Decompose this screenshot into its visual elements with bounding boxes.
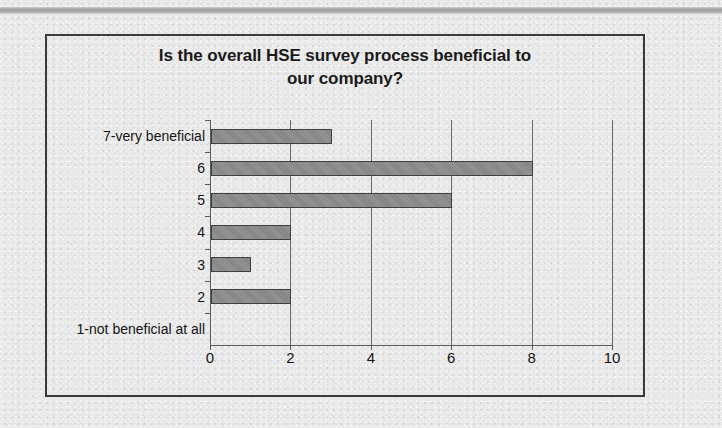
x-gridline [532,120,533,345]
y-axis-tick [205,313,210,314]
chart-title-line-2: our company? [45,67,645,90]
y-axis-tick [205,152,210,153]
bar [211,289,291,304]
plot-area [210,120,612,345]
bar [211,161,533,176]
y-axis-category-label: 2 [197,289,205,305]
y-axis-category-label: 1-not beneficial at all [77,321,205,337]
scan-artifact-band [0,7,722,14]
x-gridline [371,120,372,345]
chart-title: Is the overall HSE survey process benefi… [45,44,645,90]
y-axis-tick [205,120,210,121]
x-axis-line [210,345,612,346]
y-axis-tick [205,216,210,217]
y-axis-category-label: 4 [197,224,205,240]
y-axis-category-label: 6 [197,160,205,176]
y-axis-category-labels: 1-not beneficial at all234567-very benef… [40,120,205,345]
bar [211,193,452,208]
y-axis-tick [205,249,210,250]
bar [211,225,291,240]
x-axis-tick-label: 10 [592,349,632,366]
x-axis-tick-label: 2 [270,349,310,366]
y-axis-category-label: 7-very beneficial [103,128,205,144]
x-axis-tick-label: 4 [351,349,391,366]
y-axis-tick [205,184,210,185]
y-axis-category-label: 5 [197,192,205,208]
x-gridline [612,120,613,345]
x-axis-tick-label: 8 [512,349,552,366]
bar [211,257,251,272]
y-axis-category-label: 3 [197,257,205,273]
x-axis-tick-label: 0 [190,349,230,366]
x-axis-tick-label: 6 [431,349,471,366]
x-gridline [451,120,452,345]
y-axis-tick [205,281,210,282]
bar [211,129,332,144]
chart-title-line-1: Is the overall HSE survey process benefi… [45,44,645,67]
